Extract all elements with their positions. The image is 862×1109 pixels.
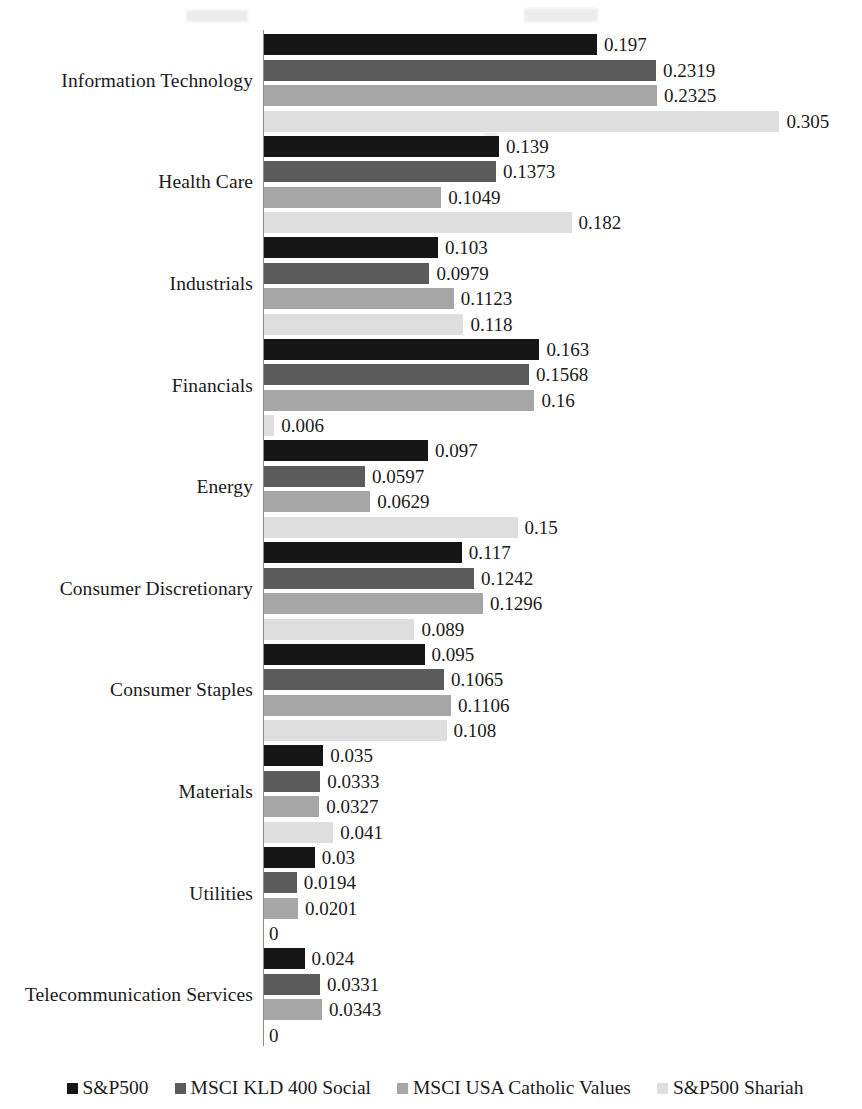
bar-item: 0.0201 — [264, 898, 357, 919]
category-label: Materials — [0, 781, 253, 803]
bar-item: 0.041 — [264, 822, 383, 843]
bar-rect — [264, 111, 779, 132]
bar-value-label: 0.108 — [454, 721, 497, 740]
bar-item: 0.0629 — [264, 491, 430, 512]
bar-rect — [264, 314, 463, 335]
bar-item: 0.0327 — [264, 796, 379, 817]
bar-value-label: 0.095 — [432, 645, 475, 664]
bar-item: 0.2325 — [264, 85, 716, 106]
plot-area: Information Technology0.1970.23190.23250… — [0, 30, 862, 1046]
legend-item[interactable]: MSCI USA Catholic Values — [397, 1078, 631, 1098]
bar-value-label: 0.139 — [506, 137, 549, 156]
bar-rect — [264, 415, 274, 436]
bar-value-label: 0.118 — [470, 315, 512, 334]
bar-group: Consumer Discretionary0.1170.12420.12960… — [0, 538, 862, 640]
bar-group: Energy0.0970.05970.06290.15 — [0, 436, 862, 538]
bar-value-label: 0.117 — [469, 543, 511, 562]
bar-value-label: 0.182 — [579, 213, 622, 232]
legend-swatch-icon — [67, 1083, 78, 1094]
legend-item[interactable]: S&P500 — [67, 1078, 149, 1098]
bar-rect — [264, 212, 572, 233]
bar-value-label: 0.006 — [281, 416, 324, 435]
bar-value-label: 0 — [269, 924, 279, 943]
legend-item[interactable]: MSCI KLD 400 Social — [175, 1078, 371, 1098]
legend-swatch-icon — [657, 1083, 668, 1094]
bar-value-label: 0 — [269, 1026, 279, 1045]
bar-rect — [264, 491, 370, 512]
bar-value-label: 0.2325 — [664, 86, 716, 105]
bar-rect — [264, 974, 320, 995]
bar-item: 0.024 — [264, 948, 354, 969]
bar-value-label: 0.1242 — [481, 569, 533, 588]
bar-rect — [264, 136, 499, 157]
bar-group: Financials0.1630.15680.160.006 — [0, 335, 862, 437]
bar-rect — [264, 999, 322, 1020]
bar-item: 0.1106 — [264, 695, 509, 716]
bar-rect — [264, 847, 315, 868]
category-label: Consumer Discretionary — [0, 578, 253, 600]
bar-value-label: 0.1065 — [451, 670, 503, 689]
bar-rect — [264, 669, 444, 690]
bar-item: 0.1373 — [264, 161, 555, 182]
legend-swatch-icon — [175, 1083, 186, 1094]
legend-label: MSCI USA Catholic Values — [413, 1078, 631, 1098]
bar-item: 0.1065 — [264, 669, 503, 690]
bar-item: 0.1049 — [264, 187, 501, 208]
bar-group: Consumer Staples0.0950.10650.11060.108 — [0, 640, 862, 742]
bar-group: Telecommunication Services0.0240.03310.0… — [0, 944, 862, 1046]
bar-rect — [264, 517, 518, 538]
bar-group: Materials0.0350.03330.03270.041 — [0, 741, 862, 843]
bar-rect — [264, 390, 534, 411]
legend-item[interactable]: S&P500 Shariah — [657, 1078, 804, 1098]
bar-group: Industrials0.1030.09790.11230.118 — [0, 233, 862, 335]
bar-rect — [264, 644, 425, 665]
bar-value-label: 0.0327 — [326, 797, 378, 816]
category-label: Information Technology — [0, 70, 253, 92]
bar-value-label: 0.0629 — [377, 492, 429, 511]
bar-value-label: 0.103 — [445, 238, 488, 257]
bar-item: 0.1296 — [264, 593, 542, 614]
bar-group: Utilities0.030.01940.02010 — [0, 843, 862, 945]
bar-value-label: 0.2319 — [663, 61, 715, 80]
bar-rect — [264, 796, 319, 817]
bar-rect — [264, 34, 597, 55]
bar-value-label: 0.1106 — [458, 696, 510, 715]
bar-rect — [264, 60, 656, 81]
bar-rect — [264, 593, 483, 614]
category-label: Industrials — [0, 273, 253, 295]
legend-label: S&P500 Shariah — [673, 1078, 804, 1098]
bar-item: 0.108 — [264, 720, 496, 741]
legend-label: MSCI KLD 400 Social — [191, 1078, 371, 1098]
bar-item: 0.1242 — [264, 568, 533, 589]
bar-value-label: 0.197 — [604, 35, 647, 54]
bar-item: 0.0597 — [264, 466, 424, 487]
bar-rect — [264, 745, 323, 766]
bar-item: 0.118 — [264, 314, 512, 335]
bar-value-label: 0.15 — [525, 518, 558, 537]
bar-item: 0.163 — [264, 339, 589, 360]
bar-rect — [264, 85, 657, 106]
legend-label: S&P500 — [83, 1078, 149, 1098]
bar-item: 0.139 — [264, 136, 549, 157]
bar-value-label: 0.0343 — [329, 1000, 381, 1019]
bar-value-label: 0.163 — [546, 340, 589, 359]
bar-item: 0.0331 — [264, 974, 379, 995]
bar-value-label: 0.0331 — [327, 975, 379, 994]
bar-rect — [264, 948, 305, 969]
bar-value-label: 0.1296 — [490, 594, 542, 613]
legend-swatch-icon — [397, 1083, 408, 1094]
bar-group: Information Technology0.1970.23190.23250… — [0, 30, 862, 132]
bar-value-label: 0.0979 — [436, 264, 488, 283]
bar-value-label: 0.097 — [435, 441, 478, 460]
bar-item: 0.095 — [264, 644, 474, 665]
bar-rect — [264, 568, 474, 589]
sector-weights-bar-chart: Information Technology0.1970.23190.23250… — [0, 0, 862, 1109]
bar-value-label: 0.16 — [541, 391, 574, 410]
bar-value-label: 0.1373 — [503, 162, 555, 181]
bar-rect — [264, 822, 333, 843]
bar-item: 0.15 — [264, 517, 558, 538]
category-label: Financials — [0, 374, 253, 396]
bar-value-label: 0.1123 — [461, 289, 513, 308]
category-label: Utilities — [0, 882, 253, 904]
bar-item: 0.0333 — [264, 771, 380, 792]
